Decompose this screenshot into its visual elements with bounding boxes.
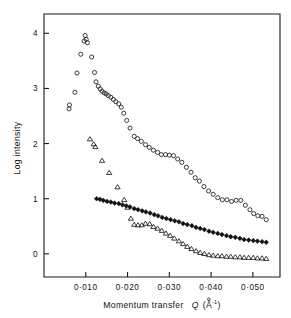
data-point (243, 203, 247, 207)
series-filled-diamonds (94, 196, 268, 244)
data-point (180, 160, 184, 164)
data-point (228, 254, 233, 258)
data-point (164, 216, 169, 221)
x-tick-label-3: 0·040 (199, 283, 222, 292)
data-point (185, 222, 190, 227)
data-point (99, 158, 104, 162)
data-point (246, 255, 251, 259)
data-point (211, 192, 215, 196)
data-point (264, 256, 269, 260)
data-point (168, 217, 173, 222)
x-tick-label-4: 0·050 (241, 283, 264, 292)
data-point (260, 239, 265, 244)
data-point (75, 71, 79, 75)
data-point (264, 240, 269, 245)
data-point (92, 70, 96, 74)
data-point (176, 239, 181, 243)
data-point (189, 170, 193, 174)
data-point (171, 154, 175, 158)
data-point (184, 165, 188, 169)
x-axis-unit-open: (Å (203, 300, 212, 310)
data-point (94, 80, 98, 84)
data-point (90, 55, 94, 59)
data-point (251, 238, 256, 243)
data-point (264, 218, 268, 222)
y-axis-title: Log intensity (12, 121, 22, 174)
y-axis-ticks (44, 33, 49, 254)
data-point (228, 234, 233, 239)
data-point (207, 229, 212, 234)
x-tick-label-0: 0·010 (74, 283, 97, 292)
scatter-plot: 0·0100·0200·0300·0400·050 01234 Momentum… (0, 0, 291, 318)
x-axis-symbol-q: Q (192, 300, 199, 310)
data-point (136, 137, 140, 141)
data-point (147, 145, 151, 149)
data-point (93, 144, 98, 148)
data-point (224, 233, 229, 238)
data-point (211, 253, 216, 257)
data-point (119, 105, 123, 109)
data-point (87, 137, 92, 141)
data-point (172, 218, 177, 223)
data-point (216, 196, 220, 200)
x-axis-tick-labels: 0·0100·0200·0300·0400·050 (74, 283, 265, 292)
data-point (246, 238, 251, 243)
data-point (125, 118, 129, 122)
y-axis-title-text: Log intensity (12, 121, 22, 174)
x-axis-unit-close: ) (218, 300, 221, 310)
y-tick-label-3: 3 (33, 84, 38, 93)
data-point (147, 222, 152, 226)
data-point (193, 176, 197, 180)
data-point (239, 198, 243, 202)
data-series-layer (67, 33, 269, 260)
data-point (211, 230, 216, 235)
data-point (207, 189, 211, 193)
data-point (128, 216, 133, 220)
data-point (220, 198, 224, 202)
data-point (225, 198, 229, 202)
data-point (176, 157, 180, 161)
data-point (151, 148, 155, 152)
data-point (79, 52, 83, 56)
data-point (255, 239, 260, 244)
data-point (143, 143, 147, 147)
x-axis-title: Momentum transfer Q (Å -1 ) (103, 298, 221, 310)
data-point (198, 226, 203, 231)
y-tick-label-1: 1 (33, 195, 38, 204)
data-point (252, 212, 256, 216)
x-tick-label-1: 0·020 (116, 283, 139, 292)
x-axis-unit-exponent: -1 (212, 299, 217, 305)
data-point (215, 231, 220, 236)
series-open-circles (67, 33, 268, 221)
data-point (233, 235, 238, 240)
y-axis-tick-labels: 01234 (33, 29, 38, 259)
data-point (139, 139, 143, 143)
data-point (242, 237, 247, 242)
y-tick-label-2: 2 (33, 140, 38, 149)
data-point (159, 153, 163, 157)
data-point (202, 185, 206, 189)
data-point (230, 199, 234, 203)
data-point (260, 214, 264, 218)
data-point (115, 185, 120, 189)
figure-container: 0·0100·0200·0300·0400·050 01234 Momentum… (0, 0, 291, 318)
data-point (107, 170, 112, 174)
x-axis-title-text: Momentum transfer (103, 300, 183, 310)
data-point (122, 197, 127, 201)
data-point (122, 111, 126, 115)
data-point (73, 90, 77, 94)
data-point (202, 227, 207, 232)
data-point (234, 198, 238, 202)
data-point (220, 232, 225, 237)
data-point (197, 179, 201, 183)
data-point (255, 256, 260, 260)
y-tick-label-0: 0 (33, 250, 38, 259)
data-point (238, 236, 243, 241)
data-point (219, 254, 224, 258)
x-axis-ticks (86, 272, 253, 277)
x-tick-label-2: 0·030 (158, 283, 181, 292)
y-tick-label-4: 4 (33, 29, 38, 38)
data-point (248, 208, 252, 212)
data-point (128, 126, 132, 130)
data-point (256, 214, 260, 218)
